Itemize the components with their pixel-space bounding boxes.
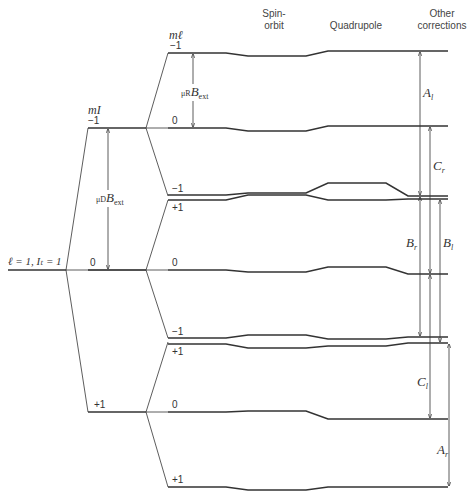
level-ml-2	[168, 126, 448, 131]
C-r-letter: C	[433, 158, 442, 173]
initial-state-label: ℓ = 1, Iₜ = 1	[8, 255, 62, 268]
C-l-letter: C	[417, 374, 426, 389]
A-l-sub: l	[431, 93, 433, 102]
header-quadrupole-text: Quadrupole	[320, 20, 392, 32]
header-other-line2: corrections	[410, 20, 474, 32]
muD-Bext-label: μDBext	[96, 190, 124, 207]
A-r-sub: r	[445, 450, 448, 459]
ml-label-8: 0	[172, 399, 178, 410]
ml-label-6: −1	[172, 326, 183, 337]
mI-label-0: 0	[90, 257, 96, 268]
A-r-label: Ar	[437, 442, 448, 459]
B-r-sub: r	[414, 243, 417, 252]
header-spin-orbit: Spin- orbit	[254, 8, 294, 32]
A-r-letter: A	[437, 442, 445, 457]
B-r-label: Br	[406, 235, 417, 252]
header-other-corrections: Other corrections	[410, 8, 474, 32]
muR-Bext-label: μRBext	[181, 84, 208, 101]
level-ml-1	[168, 51, 448, 56]
B-l-letter: B	[443, 235, 451, 250]
ext-text: ext	[114, 198, 124, 207]
A-l-label: Al	[423, 85, 433, 102]
ml-label-2: 0	[172, 115, 178, 126]
ml-label-3: −1	[172, 183, 183, 194]
header-spin-orbit-line2: orbit	[254, 20, 294, 32]
header-quadrupole: Quadrupole	[320, 20, 392, 32]
B-l-sub: l	[451, 243, 453, 252]
energy-level-diagram	[0, 0, 474, 495]
muD-text: μD	[96, 195, 106, 204]
ext-text: ext	[199, 92, 209, 101]
C-l-sub: l	[426, 382, 428, 391]
B-r-letter: B	[406, 235, 414, 250]
mI-label-minus1: −1	[88, 115, 99, 126]
B-l-label: Bl	[443, 235, 453, 252]
ml-label-4: +1	[172, 202, 183, 213]
header-spin-orbit-line1: Spin-	[254, 8, 294, 20]
level-ml-8	[168, 411, 448, 419]
C-l-label: Cl	[417, 374, 428, 391]
ml-label-1: −1	[170, 40, 181, 51]
C-r-sub: r	[442, 166, 445, 175]
level-ml-7	[168, 343, 448, 348]
level-ml-9	[168, 487, 448, 490]
ml-label-5: 0	[172, 257, 178, 268]
level-ml-3	[168, 183, 448, 196]
A-l-letter: A	[423, 85, 431, 100]
header-other-line1: Other	[410, 8, 474, 20]
level-ml-5	[168, 267, 448, 274]
level-ml-6	[168, 335, 448, 339]
ml-label-9: +1	[172, 474, 183, 485]
mI-label-plus1: +1	[94, 399, 105, 410]
B-text: B	[106, 190, 114, 205]
muR-text: μR	[181, 89, 191, 98]
ml-label-7: +1	[172, 346, 183, 357]
B-text: B	[191, 84, 199, 99]
C-r-label: Cr	[433, 158, 445, 175]
